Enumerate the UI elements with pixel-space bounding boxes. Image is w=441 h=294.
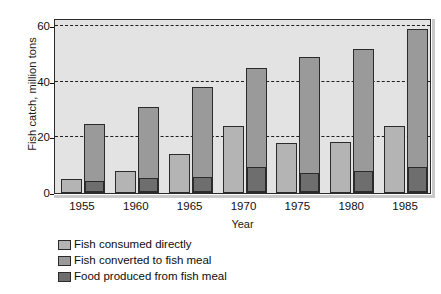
- y-tick-label-60: 60: [28, 21, 50, 33]
- bar-group-container: [55, 20, 430, 193]
- bar-converted-to-fish-meal-1985: [407, 29, 428, 193]
- bar-converted-to-fish-meal-1965: [192, 87, 213, 193]
- bar-group-1960: [115, 20, 159, 193]
- x-tick-label-1980: 1980: [338, 200, 364, 212]
- x-axis-tick-group: 1955196019651970197519801985: [54, 200, 431, 216]
- bar-converted-to-fish-meal-1970: [246, 68, 267, 193]
- bar-food-from-fish-meal-1980: [354, 171, 373, 192]
- legend-item-1: Fish converted to fish meal: [58, 253, 378, 268]
- bar-converted-to-fish-meal-1960: [138, 107, 159, 193]
- legend-label-0: Fish consumed directly: [74, 239, 192, 251]
- bar-group-1970: [223, 20, 267, 193]
- x-tick-label-1955: 1955: [69, 200, 95, 212]
- bar-food-from-fish-meal-1965: [193, 177, 212, 192]
- bar-group-1965: [169, 20, 213, 193]
- bar-group-1975: [276, 20, 320, 193]
- bar-consumed-directly-1955: [61, 179, 82, 193]
- y-axis-tick-group: 0204060: [22, 0, 50, 294]
- bar-converted-to-fish-meal-1955: [84, 124, 105, 193]
- bar-group-1985: [384, 20, 428, 193]
- x-tick-label-1975: 1975: [285, 200, 311, 212]
- bar-consumed-directly-1980: [330, 142, 351, 193]
- x-tick-label-1965: 1965: [177, 200, 203, 212]
- fish-catch-bar-chart: Fish catch, million tons 0204060 1955196…: [0, 0, 441, 294]
- chart-legend: Fish consumed directlyFish converted to …: [58, 237, 378, 285]
- bar-consumed-directly-1970: [223, 126, 244, 193]
- bar-consumed-directly-1965: [169, 154, 190, 193]
- legend-item-2: Food produced from fish meal: [58, 269, 378, 284]
- x-tick-label-1970: 1970: [231, 200, 257, 212]
- bar-group-1955: [61, 20, 105, 193]
- bar-food-from-fish-meal-1985: [408, 167, 427, 192]
- bar-converted-to-fish-meal-1980: [353, 49, 374, 193]
- legend-swatch-icon-2: [58, 272, 71, 282]
- bar-food-from-fish-meal-1955: [85, 181, 104, 192]
- bar-consumed-directly-1960: [115, 171, 136, 193]
- bar-converted-to-fish-meal-1975: [299, 57, 320, 193]
- plot-area: [54, 19, 431, 194]
- y-tick-label-20: 20: [28, 132, 50, 144]
- legend-swatch-icon-1: [58, 256, 71, 266]
- bar-group-1980: [330, 20, 374, 193]
- legend-item-0: Fish consumed directly: [58, 237, 378, 252]
- x-tick-label-1985: 1985: [392, 200, 418, 212]
- legend-label-2: Food produced from fish meal: [74, 271, 227, 283]
- y-tick-label-0: 0: [28, 188, 50, 200]
- x-axis-title: Year: [54, 218, 431, 230]
- x-tick-label-1960: 1960: [123, 200, 149, 212]
- y-tick-label-40: 40: [28, 77, 50, 89]
- bar-consumed-directly-1985: [384, 126, 405, 193]
- bar-food-from-fish-meal-1975: [300, 173, 319, 192]
- legend-swatch-icon-0: [58, 240, 71, 250]
- legend-label-1: Fish converted to fish meal: [74, 255, 211, 267]
- y-tick-mark-0: [50, 194, 54, 195]
- bar-consumed-directly-1975: [276, 143, 297, 193]
- bar-food-from-fish-meal-1960: [139, 178, 158, 192]
- bar-food-from-fish-meal-1970: [247, 167, 266, 192]
